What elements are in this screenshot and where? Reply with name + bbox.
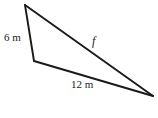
triangle-edge-left: [25, 5, 34, 61]
side-label-hypotenuse: f: [92, 35, 95, 47]
triangle-shape: [0, 0, 158, 118]
triangle-edge-bottom: [34, 61, 153, 96]
side-label-left: 6 m: [4, 32, 21, 43]
triangle-diagram: 6 m 12 m f: [0, 0, 158, 118]
side-label-bottom: 12 m: [71, 79, 93, 90]
